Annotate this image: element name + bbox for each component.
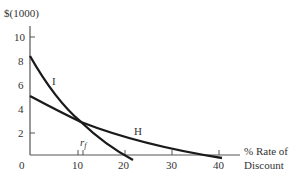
curve-h	[30, 96, 222, 158]
x-tick-label-10: 10	[72, 159, 84, 171]
origin-label: 0	[19, 159, 25, 171]
x-tick-label-30: 30	[166, 159, 178, 171]
y-tick-label-4: 4	[18, 103, 24, 115]
y-tick-label-2: 2	[18, 127, 24, 139]
x-tick-label-20: 20	[118, 159, 130, 171]
x-axis-label-line1: % Rate of	[244, 145, 288, 157]
y-tick-label-10: 10	[14, 31, 26, 43]
x-axis-label-line2: Discount	[244, 159, 284, 171]
y-ticks	[30, 37, 35, 133]
curve-i-label: I	[52, 75, 56, 87]
y-tick-label-8: 8	[18, 55, 24, 67]
curve-h-label: H	[134, 125, 142, 137]
x-tick-label-40: 40	[213, 159, 225, 171]
y-tick-label-6: 6	[18, 79, 24, 91]
npv-chart: $(1000) 10 8 6 4 2 0 10 20 30 40 % Rate …	[0, 0, 297, 175]
rf-label: rf	[80, 136, 88, 150]
y-axis-unit-label: $(1000)	[4, 7, 39, 20]
